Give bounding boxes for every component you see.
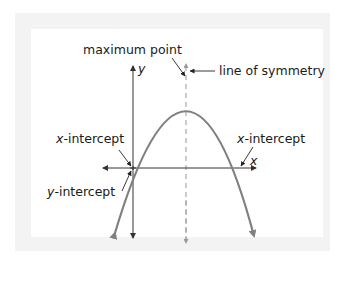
axes — [103, 66, 256, 238]
label-x-intercept-left: x-intercept — [55, 131, 124, 146]
label-x-axis: x — [249, 153, 258, 168]
pointer-x-intercept-left — [119, 150, 131, 166]
label-x-intercept-right: x-intercept — [236, 131, 305, 146]
label-y-intercept: y-intercept — [46, 184, 115, 199]
label-y-axis: y — [137, 61, 146, 76]
label-line-of-symmetry: line of symmetry — [219, 63, 326, 78]
parabola-curve — [115, 111, 254, 236]
parabola-diagram: maximum point line of symmetry x-interce… — [0, 0, 362, 289]
label-maximum-point: maximum point — [83, 42, 182, 57]
pointer-maximum — [172, 58, 185, 76]
